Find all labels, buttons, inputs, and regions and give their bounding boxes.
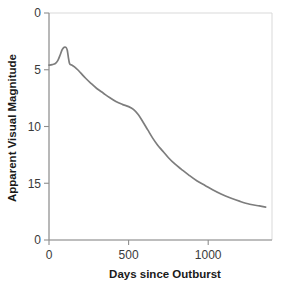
data-series-group xyxy=(49,47,266,207)
y-tick-labels: 0 5 10 15 0 xyxy=(28,6,42,247)
y-tick-label-10: 10 xyxy=(28,120,42,134)
y-tick-label-5: 5 xyxy=(34,63,41,77)
x-tick-labels: 0 500 1000 xyxy=(46,248,222,262)
nova-light-curve-chart: 0 5 10 15 0 0 500 1000 Days since Outbur… xyxy=(0,0,286,285)
x-tick-label-0: 0 xyxy=(46,248,53,262)
plot-frame xyxy=(49,13,272,240)
y-axis-title: Apparent Visual Magnitude xyxy=(6,54,18,202)
x-axis xyxy=(49,240,272,245)
y-tick-label-15: 15 xyxy=(28,177,42,191)
y-tick-label-0: 0 xyxy=(34,6,41,20)
x-tick-label-1000: 1000 xyxy=(195,248,222,262)
chart-figure: 0 5 10 15 0 0 500 1000 Days since Outbur… xyxy=(0,0,286,285)
nova-light-curve-line xyxy=(49,47,266,207)
y-axis xyxy=(44,13,49,240)
x-axis-title: Days since Outburst xyxy=(109,268,221,280)
x-tick-label-500: 500 xyxy=(119,248,139,262)
y-tick-label-20: 0 xyxy=(34,233,41,247)
